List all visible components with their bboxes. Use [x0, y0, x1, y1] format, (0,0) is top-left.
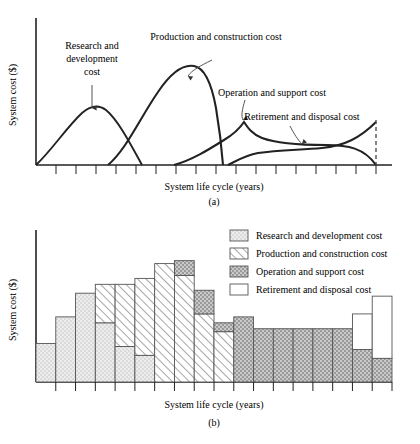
bar-segment-retirement-and-disposal [352, 314, 372, 350]
legend-swatch-production-and-construction [230, 248, 248, 259]
panel-b-x-axis-label: System life cycle (years) [164, 399, 263, 411]
bar-segment-research-and-development [115, 346, 135, 382]
bar-segment-operation-and-support [333, 329, 353, 382]
legend-label-operation-and-support: Operation and support cost [256, 266, 364, 277]
legend-label-research-and-development: Research and development cost [256, 230, 383, 241]
curve-research-and-development [36, 106, 142, 165]
bar-segment-operation-and-support [214, 323, 234, 332]
annotation-operation: Operation and support cost [218, 87, 326, 98]
panel-b-x-ticks [56, 382, 392, 391]
bar-segment-operation-and-support [194, 290, 214, 314]
annotation-research-line-1: Research and [65, 40, 119, 51]
panel-b-svg: Research and development cost Production… [0, 210, 420, 444]
legend-swatch-operation-and-support [230, 266, 248, 277]
annotation-retirement: Retirement and disposal cost [244, 111, 359, 122]
legend-label-production-and-construction: Production and construction cost [256, 248, 388, 259]
legend-label-retirement-and-disposal: Retirement and disposal cost [256, 284, 371, 295]
legend: Research and development cost Production… [230, 230, 388, 295]
bar-segment-operation-and-support [352, 349, 372, 382]
bar-segment-research-and-development [36, 344, 56, 382]
bar-segment-production-and-construction [115, 284, 135, 346]
panel-b-bar-chart: Research and development cost Production… [0, 210, 420, 444]
bar-segment-operation-and-support [174, 261, 194, 276]
panel-a-caption: (a) [208, 196, 219, 208]
bar-segment-operation-and-support [234, 317, 254, 382]
panel-a-y-axis-label: System cost ($) [7, 64, 19, 126]
bar-segment-operation-and-support [313, 329, 333, 382]
panel-a-x-axis-label: System life cycle (years) [164, 181, 263, 193]
annotation-research-line-3: cost [84, 66, 100, 77]
bar-segment-research-and-development [56, 317, 76, 382]
annotation-production: Production and construction cost [150, 31, 282, 42]
legend-swatch-retirement-and-disposal [230, 284, 248, 295]
bar-segment-production-and-construction [174, 275, 194, 382]
panel-a-x-ticks [56, 165, 376, 174]
panel-b-y-axis-label: System cost ($) [7, 279, 19, 341]
bar-segment-operation-and-support [254, 329, 274, 382]
panel-a-line-chart: System cost ($) Research and development… [0, 0, 420, 210]
bar-segment-research-and-development [95, 323, 115, 382]
bar-segment-research-and-development [76, 293, 96, 382]
bar-segment-operation-and-support [293, 329, 313, 382]
bar-segment-production-and-construction [194, 314, 214, 382]
bar-segment-production-and-construction [155, 264, 175, 382]
leader-retirement [290, 126, 302, 144]
bar-segment-retirement-and-disposal [372, 296, 392, 358]
annotation-research-line-2: development [66, 53, 118, 64]
panel-b-bars [36, 261, 392, 382]
bar-segment-operation-and-support [372, 358, 392, 382]
bar-segment-production-and-construction [214, 332, 234, 382]
panel-a-svg: System cost ($) Research and development… [0, 0, 420, 210]
figure-root: System cost ($) Research and development… [0, 0, 420, 444]
legend-swatch-research-and-development [230, 230, 248, 241]
panel-b-caption: (b) [208, 417, 220, 429]
bar-segment-production-and-construction [135, 278, 155, 355]
bar-segment-production-and-construction [95, 284, 115, 322]
bar-segment-research-and-development [135, 355, 155, 382]
bar-segment-operation-and-support [273, 329, 293, 382]
